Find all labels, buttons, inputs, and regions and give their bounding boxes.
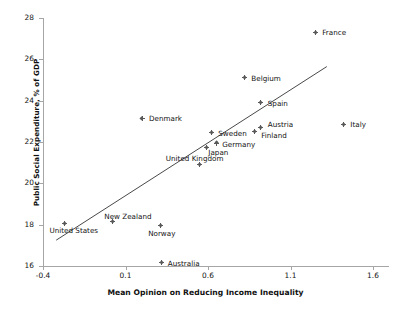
y-axis-tick-label: 26: [12, 54, 34, 63]
y-axis-tick-label: 18: [12, 220, 34, 229]
y-axis-tick: [39, 142, 43, 143]
data-point-label: Denmark: [149, 114, 182, 123]
data-point-label: Norway: [148, 229, 175, 238]
diamond-marker-icon: [197, 162, 202, 167]
data-point-label: Spain: [268, 99, 288, 108]
scatter-chart-figure: Public Social Expenditure, % of GDP Mean…: [0, 0, 411, 311]
y-axis-tick: [39, 225, 43, 226]
data-point-marker[interactable]: [197, 162, 202, 167]
y-axis-tick: [39, 18, 43, 19]
x-axis-tick: [373, 266, 374, 270]
diamond-marker-icon: [140, 116, 145, 121]
data-point-label: Sweden: [218, 129, 246, 138]
y-axis-tick: [39, 183, 43, 184]
data-point-marker[interactable]: [252, 129, 257, 134]
data-point-marker[interactable]: [158, 223, 163, 228]
data-point-marker[interactable]: [159, 260, 164, 265]
diamond-marker-icon: [214, 141, 219, 146]
x-axis-tick-label: 0.6: [188, 271, 228, 280]
data-point-label: United Kingdom: [166, 154, 224, 163]
data-point-marker[interactable]: [242, 75, 247, 80]
diamond-marker-icon: [258, 100, 263, 105]
data-point-marker[interactable]: [341, 122, 346, 127]
y-axis-tick: [39, 59, 43, 60]
diamond-marker-icon: [341, 122, 346, 127]
y-axis-tick-label: 28: [12, 13, 34, 22]
x-axis-tick-label: 0.1: [106, 271, 146, 280]
data-point-label: United States: [49, 226, 98, 235]
data-point-marker[interactable]: [140, 116, 145, 121]
data-point-label: France: [322, 28, 346, 37]
data-point-label: Finland: [261, 131, 287, 140]
y-axis-tick-label: 24: [12, 96, 34, 105]
data-point-label: Italy: [350, 120, 366, 129]
data-point-label: Belgium: [251, 74, 280, 83]
diamond-marker-icon: [242, 75, 247, 80]
data-point-marker[interactable]: [258, 125, 263, 130]
diamond-marker-icon: [158, 223, 163, 228]
data-point-label: Australia: [168, 259, 200, 268]
x-axis-tick: [291, 266, 292, 270]
data-point-marker[interactable]: [209, 130, 214, 135]
diamond-marker-icon: [258, 125, 263, 130]
x-axis-tick-label: -0.4: [23, 271, 63, 280]
x-axis-tick: [126, 266, 127, 270]
x-axis-tick-label: 1.6: [353, 271, 393, 280]
data-point-marker[interactable]: [258, 100, 263, 105]
diamond-marker-icon: [159, 260, 164, 265]
y-axis-tick-label: 16: [12, 261, 34, 270]
x-axis-tick-label: 1.1: [271, 271, 311, 280]
x-axis-line: [43, 266, 389, 267]
y-axis-tick: [39, 101, 43, 102]
y-axis-tick-label: 20: [12, 178, 34, 187]
data-point-marker[interactable]: [214, 141, 219, 146]
y-axis-line: [43, 18, 44, 266]
diamond-marker-icon: [313, 30, 318, 35]
diamond-marker-icon: [209, 130, 214, 135]
x-axis-tick: [208, 266, 209, 270]
data-point-label: Austria: [268, 120, 293, 129]
data-point-label: New Zealand: [104, 212, 151, 221]
diamond-marker-icon: [252, 129, 257, 134]
x-axis-tick: [43, 266, 44, 270]
y-axis-tick-label: 22: [12, 137, 34, 146]
data-point-marker[interactable]: [313, 30, 318, 35]
x-axis-title: Mean Opinion on Reducing Income Inequali…: [0, 288, 411, 297]
